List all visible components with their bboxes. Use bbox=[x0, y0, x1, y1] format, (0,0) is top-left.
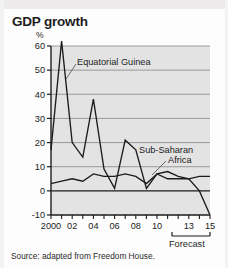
annotation-sub-saharan-line2: Africa bbox=[168, 155, 192, 165]
x-axis-tick-labels: 200002040608101315 bbox=[41, 221, 215, 231]
chart-figure: GDP growth % 6050403020100-10 2000020406… bbox=[0, 0, 228, 268]
y-tick-label: 40 bbox=[35, 90, 45, 100]
x-tick-label: 10 bbox=[152, 221, 162, 231]
y-tick-label: 20 bbox=[35, 138, 45, 148]
y-tick-label: 0 bbox=[40, 186, 45, 196]
y-tick-label: -10 bbox=[32, 210, 45, 220]
source-note: Source: adapted from Freedom House. bbox=[11, 251, 155, 261]
y-tick-label: 60 bbox=[35, 41, 45, 51]
forecast-bracket bbox=[172, 232, 210, 236]
x-tick-label: 15 bbox=[205, 221, 215, 231]
plot-background bbox=[51, 46, 210, 215]
x-tick-label: 04 bbox=[88, 221, 98, 231]
y-axis-tick-labels: 6050403020100-10 bbox=[32, 41, 45, 220]
x-tick-label: 08 bbox=[131, 221, 141, 231]
x-tick-label: 02 bbox=[67, 221, 77, 231]
x-tick-label: 2000 bbox=[41, 221, 61, 231]
y-tick-label: 50 bbox=[35, 65, 45, 75]
y-tick-label: 30 bbox=[35, 114, 45, 124]
annotation-sub-saharan-line1: Sub-Saharan bbox=[139, 145, 193, 155]
chart-svg: 6050403020100-10 200002040608101315 Equa… bbox=[0, 0, 228, 268]
x-tick-label: 13 bbox=[184, 221, 194, 231]
y-tick-label: 10 bbox=[35, 162, 45, 172]
annotation-equatorial-guinea: Equatorial Guinea bbox=[77, 57, 151, 67]
x-tick-label: 06 bbox=[109, 221, 119, 231]
plot-area: 6050403020100-10 200002040608101315 Equa… bbox=[0, 0, 228, 268]
forecast-label: Forecast bbox=[169, 239, 205, 249]
